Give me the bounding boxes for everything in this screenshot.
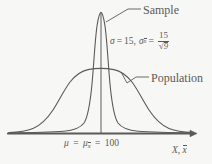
x-axis-xbar: x bbox=[183, 146, 187, 156]
sigma-symbol: σ bbox=[110, 37, 115, 47]
sample-label: Sample bbox=[143, 4, 179, 16]
population-leader-line bbox=[121, 72, 149, 83]
mu-equals-sign: = bbox=[73, 138, 78, 148]
standard-error-fraction: 15 √9 bbox=[158, 31, 169, 52]
mean-axis-label: μ = μx = 100 bbox=[64, 139, 119, 150]
sampling-distribution-figure: Sample Population σ = 15, σx = 15 √9 μ =… bbox=[0, 0, 212, 164]
x-axis-title: X, x bbox=[172, 146, 187, 156]
fraction-numerator: 15 bbox=[158, 31, 169, 40]
fraction-denominator: √9 bbox=[158, 42, 169, 51]
sample-leader-line bbox=[106, 9, 141, 22]
sigma-equals-sign: = bbox=[117, 37, 122, 47]
sigma-value: 15, bbox=[124, 37, 136, 47]
x-axis-comma: , bbox=[178, 145, 180, 155]
population-label: Population bbox=[151, 72, 203, 84]
sigma-formula: σ = 15, σx = 15 √9 bbox=[110, 31, 169, 52]
mu-xbar-equals-sign: = bbox=[95, 138, 100, 148]
radicand-value: 9 bbox=[164, 42, 168, 51]
mean-value: 100 bbox=[105, 138, 119, 148]
mu-xbar-subscript: x bbox=[88, 143, 91, 150]
sigma-xbar-subscript: x bbox=[144, 38, 147, 45]
x-axis-arrowhead bbox=[190, 130, 197, 136]
mu-symbol: μ bbox=[64, 138, 69, 148]
sigma-xbar-equals-sign: = bbox=[149, 37, 154, 47]
